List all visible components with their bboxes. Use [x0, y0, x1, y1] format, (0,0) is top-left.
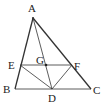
label-b: B [3, 83, 10, 95]
point-g-dot [45, 64, 48, 67]
geometry-diagram: A B C D E F G [0, 0, 107, 111]
label-g: G [36, 54, 44, 66]
label-a: A [28, 2, 36, 14]
label-d: D [48, 92, 56, 104]
point-a-dot [32, 17, 34, 19]
label-e: E [8, 59, 15, 71]
segment-fd [52, 65, 72, 89]
segment-ab [15, 18, 33, 89]
label-c: C [93, 84, 100, 96]
segment-ed [20, 65, 52, 89]
label-f: F [74, 60, 80, 72]
